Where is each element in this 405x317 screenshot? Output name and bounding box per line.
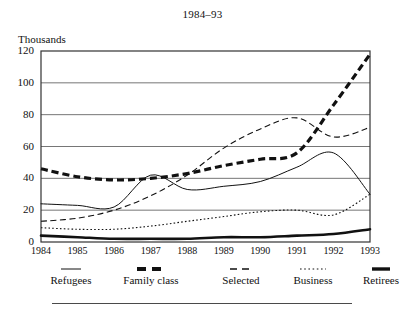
thick-solid-swatch [342, 264, 405, 274]
dotted-swatch [274, 264, 352, 274]
x-axis-tick-label: 1990 [240, 245, 280, 256]
chart-container: 1984–93 Thousands 020406080100120 198419… [0, 0, 405, 317]
series-line-family-class [41, 54, 370, 180]
x-axis-tick-label: 1986 [94, 245, 134, 256]
y-axis-tick-label: 80 [2, 109, 34, 120]
series-line-refugees [41, 152, 370, 209]
y-axis-tick-label: 100 [2, 77, 34, 88]
footer-divider [52, 303, 352, 304]
y-axis-tick-label: 60 [2, 141, 34, 152]
legend-item-retirees[interactable]: Retirees [342, 264, 405, 287]
series-line-retirees [41, 229, 370, 239]
legend-item-refugees[interactable]: Refugees [32, 264, 110, 287]
x-axis-tick-label: 1992 [313, 245, 353, 256]
x-axis-tick-label: 1985 [58, 245, 98, 256]
x-axis-tick-label: 1989 [204, 245, 244, 256]
x-axis-tick-label: 1991 [277, 245, 317, 256]
y-axis-tick-label: 20 [2, 204, 34, 215]
legend-label: Refugees [32, 274, 110, 287]
legend-label: Family class [112, 274, 190, 287]
legend-label: Business [274, 274, 352, 287]
legend-item-family-class[interactable]: Family class [112, 264, 190, 287]
x-axis-tick-label: 1988 [167, 245, 207, 256]
thick-dashed-swatch [112, 264, 190, 274]
legend-label: Retirees [342, 274, 405, 287]
gridlines [41, 83, 370, 210]
legend-label: Selected [202, 274, 280, 287]
x-axis-tick-label: 1993 [350, 245, 390, 256]
series-line-business [41, 194, 370, 229]
legend-item-selected[interactable]: Selected [202, 264, 280, 287]
y-axis-tick-label: 120 [2, 45, 34, 56]
medium-dashed-swatch [202, 264, 280, 274]
x-axis-tick-label: 1984 [21, 245, 61, 256]
thin-solid-swatch [32, 264, 110, 274]
x-axis-tick-label: 1987 [131, 245, 171, 256]
chart-legend: RefugeesFamily classSelectedBusinessReti… [24, 264, 384, 298]
y-axis-tick-label: 40 [2, 172, 34, 183]
legend-item-business[interactable]: Business [274, 264, 352, 287]
